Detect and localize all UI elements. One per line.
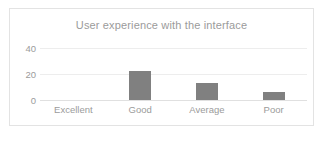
bar-slot	[40, 48, 107, 100]
chart-container: User experience with the interface 40 20…	[9, 8, 314, 126]
x-axis-label-average: Average	[174, 104, 241, 115]
bar-poor[interactable]	[263, 92, 285, 100]
y-axis-tick-20: 20	[18, 70, 36, 80]
y-axis-tick-40: 40	[18, 44, 36, 54]
bar-good[interactable]	[129, 71, 151, 100]
bar-group	[40, 48, 307, 101]
y-axis-labels: 40 20 0	[18, 48, 36, 101]
bar-slot	[107, 48, 174, 100]
bar-average[interactable]	[196, 83, 218, 100]
bar-slot	[174, 48, 241, 100]
plot-area	[40, 48, 307, 101]
x-axis-label-excellent: Excellent	[40, 104, 107, 115]
x-axis-label-good: Good	[107, 104, 174, 115]
y-axis-tick-0: 0	[18, 96, 36, 106]
chart-title: User experience with the interface	[10, 19, 313, 31]
x-axis-labels: Excellent Good Average Poor	[40, 104, 307, 120]
bar-slot	[240, 48, 307, 100]
x-axis-label-poor: Poor	[240, 104, 307, 115]
